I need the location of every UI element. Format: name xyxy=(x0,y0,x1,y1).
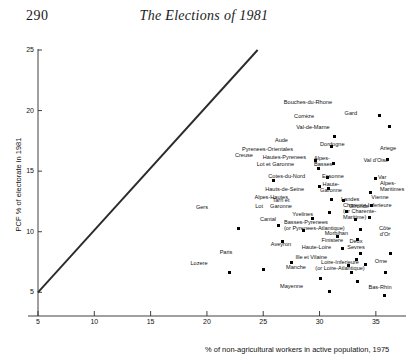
data-point-label: Mayenne xyxy=(227,283,303,289)
data-point-marker xyxy=(328,290,331,293)
data-point-marker xyxy=(319,277,322,280)
data-point-label: Loire-Inferieure (or Loire-Atlantique) xyxy=(302,259,378,271)
x-tick-label: 35 xyxy=(366,318,386,325)
data-point-label: Côte d'Or xyxy=(347,225,408,237)
data-point-marker xyxy=(359,252,362,255)
diagonal-reference-line xyxy=(38,50,258,292)
data-point-label: Alpes- Maritimes xyxy=(380,180,408,192)
data-point-marker xyxy=(237,227,240,230)
data-point-marker xyxy=(328,211,331,214)
data-point-label: Haute- Garonne xyxy=(293,181,369,193)
y-tick-label: 25 xyxy=(16,46,34,53)
data-point-label: Lozere xyxy=(161,260,237,266)
data-point-marker xyxy=(330,198,333,201)
data-point-label: Tarn et Garonne xyxy=(243,197,319,209)
data-point-marker xyxy=(317,167,320,170)
data-point-marker xyxy=(272,179,275,182)
data-point-label: Aude xyxy=(212,137,288,143)
data-point-marker xyxy=(388,125,391,128)
data-point-label: Dordogne xyxy=(320,141,396,147)
data-point-marker xyxy=(383,294,386,297)
diagonal-reference-line xyxy=(38,50,258,292)
x-tick-label: 25 xyxy=(253,318,273,325)
scatter-plot-figure: 5101520255101520253035 Bouches-du-RhoneG… xyxy=(0,0,408,364)
data-point-marker xyxy=(333,135,336,138)
data-point-marker xyxy=(378,114,381,117)
data-point-label: Charente-Inferieure (or Charente- Mariti… xyxy=(343,202,408,221)
x-tick-label: 5 xyxy=(28,318,48,325)
y-tick-label: 5 xyxy=(16,288,34,295)
data-point-label: Cotes-du-Nord xyxy=(229,173,305,179)
data-point-label: Essonne xyxy=(322,173,398,179)
x-axis-title: % of non-agricultural workers in active … xyxy=(205,345,389,354)
data-point-marker xyxy=(356,280,359,283)
book-page: 290 The Elections of 1981 51015202551015… xyxy=(0,0,408,364)
x-tick-label: 15 xyxy=(141,318,161,325)
data-point-label: Corrèze xyxy=(238,113,314,119)
data-point-label: Val-de-Marne xyxy=(275,124,351,130)
data-point-label: Bouches-du-Rhone xyxy=(256,99,332,105)
x-tick-label: 30 xyxy=(310,318,330,325)
data-point-label: Alpes- Basses xyxy=(314,155,390,167)
data-point-label: Lot et Garonne xyxy=(218,161,294,167)
y-axis-title: PCF % of electorate in 1981 xyxy=(14,115,23,255)
y-tick-label: 20 xyxy=(16,107,34,114)
data-point-label: Bas-Rhin xyxy=(342,284,408,290)
data-point-label: Deux Sevres xyxy=(318,238,394,250)
data-point-marker xyxy=(389,252,392,255)
x-tick-label: 10 xyxy=(84,318,104,325)
data-point-marker xyxy=(228,271,231,274)
data-point-label: Morbihan xyxy=(272,230,348,236)
data-point-marker xyxy=(350,271,353,274)
data-point-marker xyxy=(277,224,280,227)
data-point-marker xyxy=(384,271,387,274)
data-point-label: Creuse xyxy=(177,152,253,158)
x-tick-label: 20 xyxy=(197,318,217,325)
